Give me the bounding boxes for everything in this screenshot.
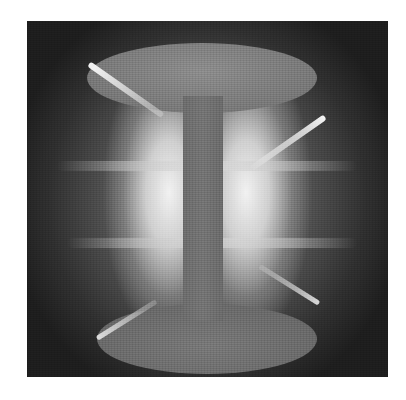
- plasma-photograph: [27, 21, 388, 377]
- grain-overlay: [27, 21, 388, 377]
